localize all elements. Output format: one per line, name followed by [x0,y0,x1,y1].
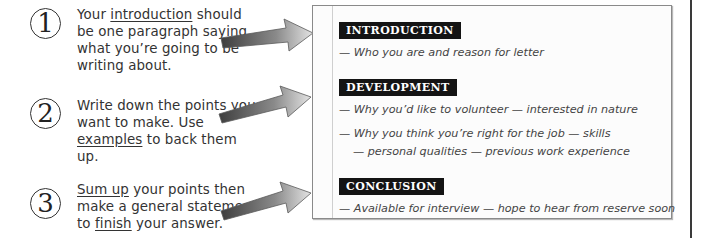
arrow-icon-2 [219,86,311,123]
note-line: — Available for interview — hope to hear… [339,202,675,215]
note-line: — personal qualities — previous work exp… [353,145,630,158]
heading-development: DEVELOPMENT [339,79,457,96]
page-edge-divider [690,0,692,238]
arrow-icon-3 [221,182,311,220]
note-line: — Who you are and reason for letter [339,46,544,59]
heading-conclusion: CONCLUSION [339,178,444,195]
arrow-icon-1 [221,19,313,51]
margin-rule [332,6,333,218]
essay-plan-panel: INTRODUCTION — Who you are and reason fo… [312,5,672,219]
note-line: — Why you think you’re right for the job… [339,127,611,140]
heading-introduction: INTRODUCTION [339,22,461,39]
note-line: — Why you’d like to volunteer — interest… [339,103,638,116]
